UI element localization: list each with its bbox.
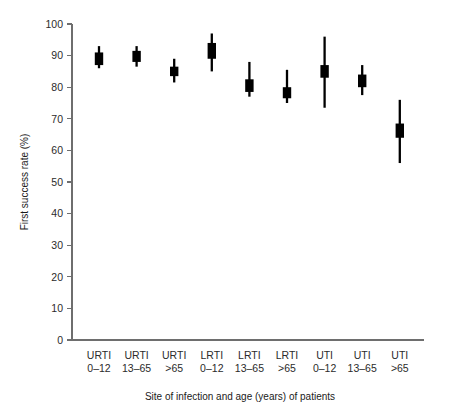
x-tick-label-age: 13–65 — [235, 362, 264, 374]
point-estimate-box — [245, 79, 253, 92]
y-tick-label: 90 — [51, 49, 63, 61]
data-point-marker — [396, 100, 404, 163]
y-axis-title: First success rate (%) — [19, 134, 30, 231]
y-tick-label: 20 — [51, 271, 63, 283]
data-point-marker — [170, 59, 178, 83]
x-tick-label-age: >65 — [165, 362, 183, 374]
y-tick-label: 80 — [51, 81, 63, 93]
point-estimate-box — [170, 67, 178, 76]
x-tick-label-age: 0–12 — [313, 362, 337, 374]
y-axis: 0102030405060708090100 — [45, 18, 72, 346]
y-tick-label: 50 — [51, 176, 63, 188]
x-axis-title: Site of infection and age (years) of pat… — [145, 391, 335, 402]
y-tick-label: 60 — [51, 144, 63, 156]
x-tick-label-site: LRTI — [276, 349, 299, 361]
point-estimate-box — [320, 65, 328, 78]
y-tick-label: 10 — [51, 302, 63, 314]
x-tick-label-age: >65 — [391, 362, 409, 374]
y-tick-label: 70 — [51, 113, 63, 125]
x-tick-label-age: 13–65 — [122, 362, 151, 374]
x-tick-label-age: 0–12 — [200, 362, 224, 374]
x-tick-label-age: >65 — [278, 362, 296, 374]
x-tick-label-site: URTI — [162, 349, 186, 361]
data-point-marker — [320, 37, 328, 108]
data-point-marker — [245, 62, 253, 97]
data-point-marker — [95, 46, 103, 68]
x-tick-label-age: 0–12 — [87, 362, 111, 374]
point-estimate-box — [283, 87, 291, 98]
x-tick-label-site: UTI — [354, 349, 371, 361]
point-estimate-box — [358, 75, 366, 88]
y-tick-label: 30 — [51, 239, 63, 251]
data-point-marker — [358, 65, 366, 95]
data-markers — [95, 33, 404, 163]
point-estimate-box — [208, 43, 216, 59]
y-tick-label: 0 — [57, 334, 63, 346]
x-tick-label-site: LRTI — [238, 349, 261, 361]
data-point-marker — [132, 46, 140, 67]
x-tick-label-site: URTI — [124, 349, 148, 361]
point-estimate-box — [396, 124, 404, 138]
chart-figure: 0102030405060708090100 URTI0–12URTI13–65… — [0, 0, 460, 414]
first-success-rate-chart: 0102030405060708090100 URTI0–12URTI13–65… — [0, 0, 460, 414]
x-axis: URTI0–12URTI13–65URTI>65LRTI0–12LRTI13–6… — [72, 340, 424, 374]
y-tick-label: 100 — [45, 18, 63, 30]
point-estimate-box — [95, 52, 103, 65]
y-tick-label: 40 — [51, 207, 63, 219]
x-tick-label-site: LRTI — [201, 349, 224, 361]
data-point-marker — [283, 70, 291, 103]
x-tick-label-site: UTI — [316, 349, 333, 361]
x-tick-label-site: URTI — [87, 349, 111, 361]
point-estimate-box — [132, 51, 140, 62]
x-tick-label-site: UTI — [391, 349, 408, 361]
x-tick-label-age: 13–65 — [348, 362, 377, 374]
data-point-marker — [208, 33, 216, 71]
